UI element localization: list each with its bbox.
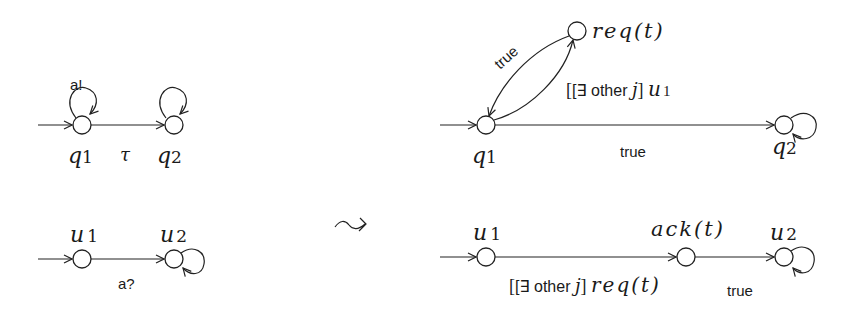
transition-req-to-q1 xyxy=(489,36,569,116)
edge-label-u1-to-ack: [[∃ other j] req(t) xyxy=(509,273,661,297)
state-label-q2: q2 xyxy=(157,143,182,168)
state-u2 xyxy=(165,250,183,268)
state-label-u1-right: u1 xyxy=(473,220,501,245)
transition-label-a-receive: a? xyxy=(118,275,135,292)
right-u-automaton: u1 ack(t) u2 [[∃ other j] req(t) true xyxy=(440,217,814,299)
self-loop-q2-right xyxy=(791,113,816,138)
right-q-automaton: req(t) true [[∃ other j] u1 q1 true q2 xyxy=(440,19,816,168)
self-loop-label-q1: a! xyxy=(70,76,83,93)
state-label-u2-right: u2 xyxy=(770,220,797,245)
self-loop-u2 xyxy=(181,249,204,273)
state-q2 xyxy=(165,116,183,134)
edge-label-q1-to-req: [[∃ other j] u1 xyxy=(566,77,670,101)
edge-label-ack-to-u2: true xyxy=(727,282,753,299)
self-loop-u2-right xyxy=(791,247,814,273)
state-ack xyxy=(677,248,695,266)
state-label-q1: q1 xyxy=(68,143,93,168)
left-u-automaton: u1 u2 a? xyxy=(38,222,204,292)
state-label-ack: ack(t) xyxy=(651,217,725,241)
state-label-u2: u2 xyxy=(160,222,187,247)
leads-to-arrow-icon xyxy=(335,218,366,231)
state-label-q1-right: q1 xyxy=(472,143,497,168)
state-label-u1: u1 xyxy=(70,222,98,247)
edge-label-q1-to-q2: true xyxy=(620,143,646,160)
state-label-req: req(t) xyxy=(592,19,665,43)
state-q1-right xyxy=(477,116,495,134)
state-q1 xyxy=(73,116,91,134)
transition-label-tau: τ xyxy=(120,144,131,165)
automata-diagram: a! q1 τ q2 u1 u2 a? req(t) true [[∃ othe… xyxy=(0,0,858,318)
edge-label-req-to-q1: true xyxy=(491,42,522,72)
left-q-automaton: a! q1 τ q2 xyxy=(38,76,186,168)
state-req xyxy=(568,22,586,40)
self-loop-q2 xyxy=(160,87,187,118)
state-u1 xyxy=(73,250,91,268)
state-label-q2-right: q2 xyxy=(772,134,797,159)
state-q2-right xyxy=(775,116,793,134)
state-u1-right xyxy=(477,248,495,266)
state-u2-right xyxy=(775,248,793,266)
